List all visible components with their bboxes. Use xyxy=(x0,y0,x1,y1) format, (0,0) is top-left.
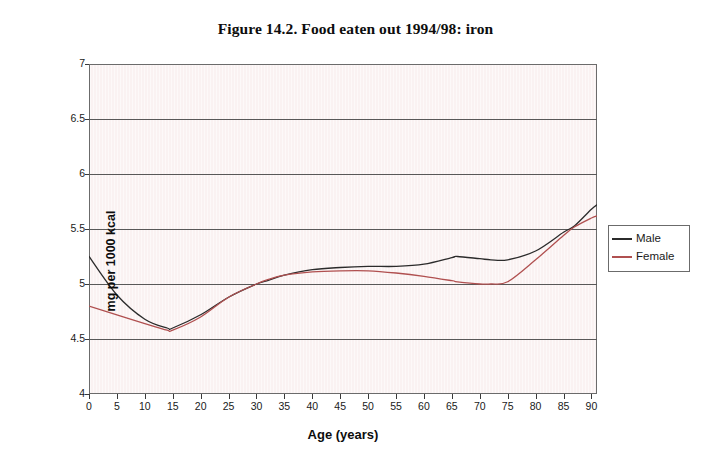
x-tick-label: 40 xyxy=(297,400,327,412)
x-tick-mark xyxy=(452,394,453,399)
x-tick-label: 45 xyxy=(325,400,355,412)
x-tick-mark xyxy=(201,394,202,399)
x-tick-label: 60 xyxy=(409,400,439,412)
x-tick-label: 65 xyxy=(437,400,467,412)
x-tick-mark xyxy=(229,394,230,399)
y-tick-label: 6 xyxy=(51,167,85,179)
x-tick-mark xyxy=(591,394,592,399)
y-tick-label: 5.5 xyxy=(51,222,85,234)
x-tick-label: 80 xyxy=(521,400,551,412)
legend: Male Female xyxy=(608,225,690,272)
x-tick-label: 15 xyxy=(158,400,188,412)
x-tick-mark xyxy=(284,394,285,399)
legend-label-male: Male xyxy=(636,233,661,245)
x-tick-mark xyxy=(89,394,90,399)
x-tick-mark xyxy=(564,394,565,399)
legend-item-female: Female xyxy=(612,248,689,266)
y-tick-label: 4 xyxy=(51,387,85,399)
x-tick-mark xyxy=(480,394,481,399)
x-tick-label: 75 xyxy=(493,400,523,412)
x-tick-mark xyxy=(424,394,425,399)
x-tick-label: 70 xyxy=(465,400,495,412)
x-axis-tick-area: 051015202530354045505560657075808590 xyxy=(89,394,597,418)
line-male xyxy=(89,205,597,330)
chart-title: Figure 14.2. Food eaten out 1994/98: iro… xyxy=(0,20,711,38)
y-tick-label: 6.5 xyxy=(51,112,85,124)
x-tick-mark xyxy=(536,394,537,399)
x-tick-label: 10 xyxy=(130,400,160,412)
legend-item-male: Male xyxy=(612,230,689,248)
x-tick-label: 35 xyxy=(269,400,299,412)
x-tick-mark xyxy=(396,394,397,399)
x-tick-label: 25 xyxy=(214,400,244,412)
x-tick-mark xyxy=(173,394,174,399)
y-axis-title: mg per 1000 kcal xyxy=(104,131,118,391)
y-tick-label: 7 xyxy=(51,57,85,69)
x-tick-label: 50 xyxy=(353,400,383,412)
x-tick-label: 30 xyxy=(241,400,271,412)
x-tick-mark xyxy=(145,394,146,399)
x-tick-mark xyxy=(368,394,369,399)
series-lines xyxy=(89,64,597,394)
legend-label-female: Female xyxy=(636,251,674,263)
x-tick-mark xyxy=(312,394,313,399)
x-tick-label: 85 xyxy=(549,400,579,412)
x-tick-mark xyxy=(117,394,118,399)
x-tick-label: 20 xyxy=(186,400,216,412)
x-axis-title: Age (years) xyxy=(89,427,597,442)
x-tick-label: 55 xyxy=(381,400,411,412)
y-axis-tick-area: 44.555.566.57 xyxy=(47,64,85,394)
figure-container: Figure 14.2. Food eaten out 1994/98: iro… xyxy=(0,0,711,469)
x-tick-label: 5 xyxy=(102,400,132,412)
x-tick-mark xyxy=(256,394,257,399)
x-tick-label: 90 xyxy=(576,400,606,412)
plot-area: mg per 1000 kcal xyxy=(89,64,597,394)
y-tick-label: 5 xyxy=(51,277,85,289)
line-female xyxy=(89,216,597,332)
x-tick-label: 0 xyxy=(74,400,104,412)
x-tick-mark xyxy=(508,394,509,399)
legend-swatch-female xyxy=(612,256,632,258)
legend-swatch-male xyxy=(612,238,632,240)
x-tick-mark xyxy=(340,394,341,399)
y-tick-label: 4.5 xyxy=(51,332,85,344)
